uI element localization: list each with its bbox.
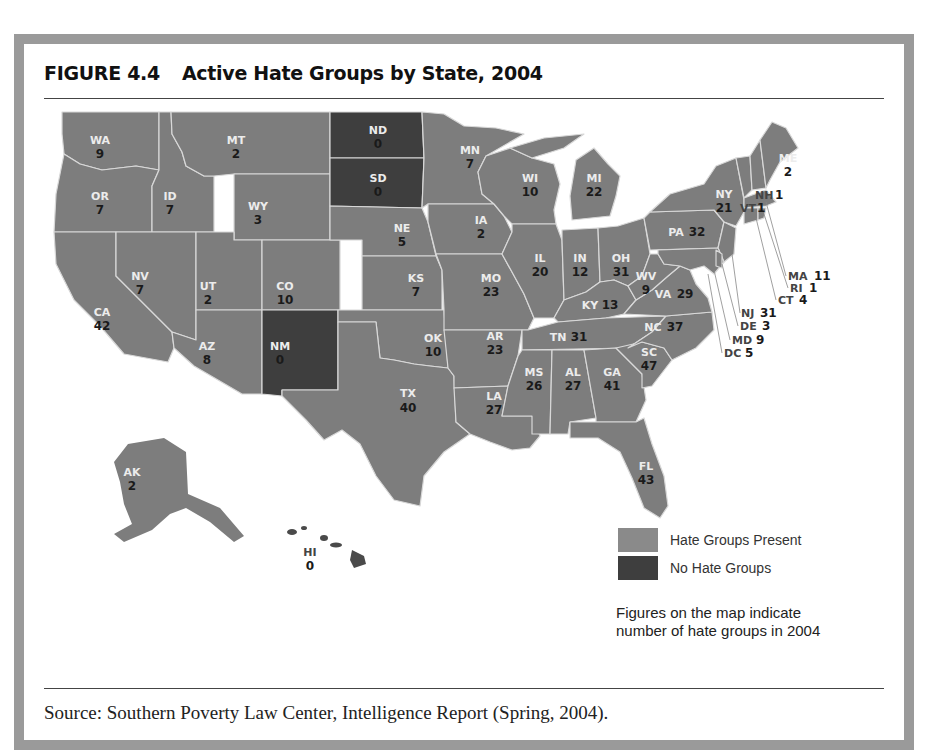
svg-text:7: 7: [136, 283, 144, 297]
svg-text:GA: GA: [603, 366, 621, 379]
legend-item-none: No Hate Groups: [618, 554, 802, 582]
svg-text:2: 2: [232, 147, 240, 161]
svg-text:27: 27: [486, 403, 503, 417]
source-citation: Source: Southern Poverty Law Center, Int…: [44, 702, 608, 724]
figure-title: FIGURE 4.4Active Hate Groups by State, 2…: [44, 62, 543, 84]
svg-text:CO: CO: [276, 280, 293, 293]
svg-text:VT: VT: [740, 202, 757, 215]
svg-text:7: 7: [96, 203, 104, 217]
svg-text:23: 23: [487, 343, 504, 357]
svg-text:23: 23: [483, 285, 500, 299]
state-pa: [644, 210, 724, 250]
svg-text:5: 5: [398, 235, 406, 249]
svg-text:9: 9: [756, 333, 764, 347]
svg-text:13: 13: [602, 298, 619, 312]
svg-text:0: 0: [374, 185, 382, 199]
legend-item-present: Hate Groups Present: [618, 526, 802, 554]
svg-text:AR: AR: [487, 330, 505, 343]
svg-text:NM: NM: [270, 340, 290, 353]
state-ia: [428, 204, 512, 254]
svg-text:10: 10: [277, 293, 294, 307]
svg-text:1: 1: [775, 188, 783, 202]
svg-text:IL: IL: [534, 252, 545, 265]
svg-text:VA: VA: [655, 288, 672, 301]
svg-text:20: 20: [532, 265, 549, 279]
svg-text:OH: OH: [612, 252, 631, 265]
svg-text:ID: ID: [163, 190, 176, 203]
svg-text:TX: TX: [400, 387, 417, 400]
svg-text:2: 2: [784, 165, 792, 179]
svg-text:WY: WY: [248, 200, 269, 213]
svg-text:NY: NY: [715, 188, 733, 201]
svg-text:IN: IN: [573, 252, 586, 265]
figure-title-text: Active Hate Groups by State, 2004: [182, 62, 543, 84]
svg-text:WI: WI: [522, 172, 538, 185]
svg-text:9: 9: [642, 283, 650, 297]
figure-number: FIGURE 4.4: [44, 62, 160, 84]
svg-text:ME: ME: [779, 152, 797, 165]
svg-text:5: 5: [745, 346, 753, 360]
svg-text:47: 47: [641, 359, 658, 373]
svg-text:WV: WV: [636, 270, 657, 283]
svg-text:NJ: NJ: [741, 307, 754, 320]
map-note: Figures on the map indicate number of ha…: [616, 604, 876, 640]
figure-frame: FIGURE 4.4Active Hate Groups by State, 2…: [14, 34, 914, 750]
svg-text:MT: MT: [227, 134, 246, 147]
svg-text:2: 2: [128, 479, 136, 493]
svg-text:NC: NC: [644, 321, 661, 334]
svg-text:1: 1: [809, 281, 817, 295]
swatch-present: [618, 528, 658, 552]
legend-label-present: Hate Groups Present: [670, 532, 802, 548]
title-rule: [44, 98, 884, 99]
svg-text:2: 2: [204, 293, 212, 307]
svg-text:0: 0: [306, 559, 314, 573]
svg-text:FL: FL: [639, 460, 654, 473]
svg-text:NE: NE: [394, 222, 411, 235]
svg-text:WA: WA: [90, 134, 111, 147]
svg-text:8: 8: [203, 353, 211, 367]
svg-text:CA: CA: [94, 306, 111, 319]
map-note-line-2: number of hate groups in 2004: [616, 622, 876, 640]
svg-text:NV: NV: [131, 270, 149, 283]
state-ks: [362, 256, 442, 310]
svg-text:0: 0: [374, 137, 382, 151]
svg-text:9: 9: [96, 147, 104, 161]
svg-text:IA: IA: [475, 214, 488, 227]
svg-text:42: 42: [94, 319, 111, 333]
legend-label-none: No Hate Groups: [670, 560, 771, 576]
svg-text:27: 27: [565, 379, 582, 393]
svg-text:UT: UT: [200, 280, 217, 293]
state-nm: [262, 310, 338, 396]
svg-text:12: 12: [572, 265, 589, 279]
state-co: [262, 240, 340, 310]
svg-text:LA: LA: [486, 390, 502, 403]
state-ne: [330, 206, 436, 256]
svg-text:41: 41: [604, 379, 621, 393]
svg-text:29: 29: [677, 287, 694, 301]
svg-text:10: 10: [425, 345, 442, 359]
svg-text:43: 43: [638, 473, 655, 487]
svg-text:31: 31: [760, 306, 777, 320]
svg-text:10: 10: [522, 185, 539, 199]
swatch-none: [618, 556, 658, 580]
state-de: [716, 250, 722, 268]
svg-text:26: 26: [526, 379, 543, 393]
svg-text:7: 7: [412, 285, 420, 299]
svg-text:32: 32: [689, 225, 706, 239]
svg-text:AZ: AZ: [199, 340, 216, 353]
state-fl: [570, 418, 668, 518]
svg-text:40: 40: [400, 401, 417, 415]
svg-text:KS: KS: [408, 272, 425, 285]
svg-text:DC: DC: [724, 347, 741, 360]
map-note-line-1: Figures on the map indicate: [616, 604, 876, 622]
svg-text:PA: PA: [668, 226, 684, 239]
svg-text:TN: TN: [550, 331, 567, 344]
svg-text:37: 37: [667, 320, 684, 334]
svg-text:MN: MN: [460, 144, 480, 157]
svg-text:21: 21: [716, 201, 733, 215]
svg-text:OR: OR: [91, 190, 109, 203]
svg-text:7: 7: [166, 203, 174, 217]
svg-text:2: 2: [477, 227, 485, 241]
svg-text:MS: MS: [525, 366, 544, 379]
state-hi: [287, 526, 366, 568]
